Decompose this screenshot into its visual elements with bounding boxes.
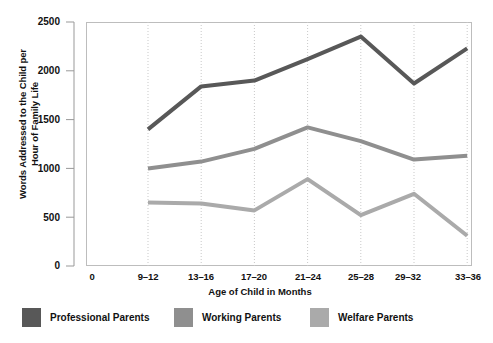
x-tick-label-17-20: 17–20 [224,271,284,282]
legend-swatch-working [174,308,193,327]
x-tick-label-33-36: 33–36 [438,271,493,282]
series-line-working-parents [148,127,467,168]
chart-legend: Professional Parents Working Parents Wel… [22,306,472,330]
gridlines [148,22,467,266]
legend-label-working: Working Parents [202,312,281,323]
y-tick-label-1000: 1000 [14,163,60,174]
legend-label-professional: Professional Parents [50,312,149,323]
x-tick-label-21-24: 21–24 [278,271,338,282]
x-tick-label-29-32: 29–32 [378,271,438,282]
x-tick-label-9-12: 9–12 [118,271,178,282]
plot-frame [87,23,472,266]
y-tick-label-0: 0 [14,260,60,271]
y-tick-label-2500: 2500 [14,16,60,27]
plot-border [87,23,472,266]
series-line-welfare-parents [148,179,467,236]
x-axis-title: Age of Child in Months [150,286,370,297]
y-tick-label-500: 500 [14,212,60,223]
legend-item-professional[interactable]: Professional Parents [22,306,149,328]
chart-figure: Words Addressed to the Child per Hour of… [0,0,493,343]
y-tick-label-1500: 1500 [14,114,60,125]
series-line-professional-parents [148,37,467,130]
series-lines [148,37,467,236]
y-axis-ticks [66,22,74,266]
legend-label-welfare: Welfare Parents [338,312,413,323]
legend-swatch-professional [22,308,41,327]
legend-item-welfare[interactable]: Welfare Parents [310,306,413,328]
legend-swatch-welfare [310,308,329,327]
x-tick-label-13-16: 13–16 [171,271,231,282]
x-origin-label: 0 [62,271,122,282]
legend-item-working[interactable]: Working Parents [174,306,281,328]
y-tick-label-2000: 2000 [14,65,60,76]
